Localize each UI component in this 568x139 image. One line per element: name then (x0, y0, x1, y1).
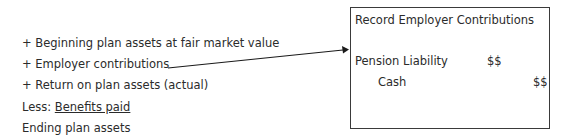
credit-amount: $$ (533, 75, 548, 89)
journal-entry-box: Record Employer Contributions Pension Li… (350, 7, 550, 129)
journal-entry-title: Record Employer Contributions (355, 13, 534, 27)
debit-amount: $$ (487, 54, 502, 68)
arrowhead-icon (342, 46, 349, 54)
credit-account: Cash (378, 75, 406, 89)
debit-account: Pension Liability (355, 54, 448, 68)
